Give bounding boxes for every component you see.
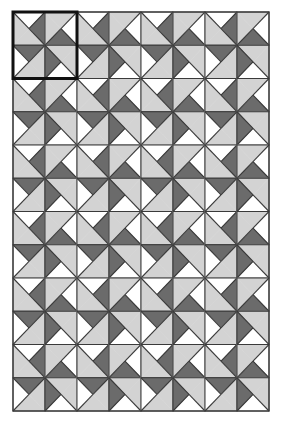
tessellation-svg [0,0,281,421]
pinwheel-tessellation-figure [0,0,281,421]
